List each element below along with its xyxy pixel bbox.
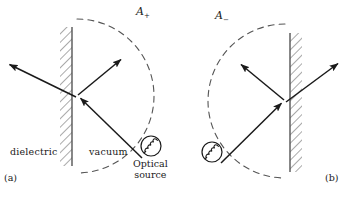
amplitude-sign-b: −: [223, 16, 229, 24]
reflected-ray-a: [78, 60, 121, 96]
dielectric-label-a: dielectric: [10, 146, 57, 157]
panel-tag-b: (b): [325, 172, 339, 183]
amplitude-label-a: A+: [136, 5, 150, 20]
dielectric-hatching-b: [290, 33, 302, 172]
amplitude-letter-a: A: [136, 5, 144, 18]
optical-source-label-a: Optical source: [133, 158, 168, 180]
reflected-ray-b: [241, 65, 284, 101]
amplitude-sign-a: +: [144, 12, 150, 20]
vacuum-label-a: vacuum: [89, 146, 128, 157]
figure-canvas: [0, 0, 353, 197]
optical-source-circle-b: [202, 142, 222, 162]
panel-tag-a: (a): [4, 172, 17, 183]
amplitude-label-b: A−: [215, 9, 229, 24]
panel-b-group: [202, 24, 338, 178]
amplitude-letter-b: A: [215, 9, 223, 22]
optical-source-circle-a: [141, 136, 161, 156]
dielectric-hatching-a: [60, 27, 72, 166]
optical-reflection-figure: A+ dielectric vacuum Optical source (a) …: [0, 0, 353, 197]
optical-source-label-line2: source: [133, 169, 168, 180]
optical-source-label-line1: Optical: [133, 158, 168, 169]
incident-ray-b: [221, 103, 282, 163]
